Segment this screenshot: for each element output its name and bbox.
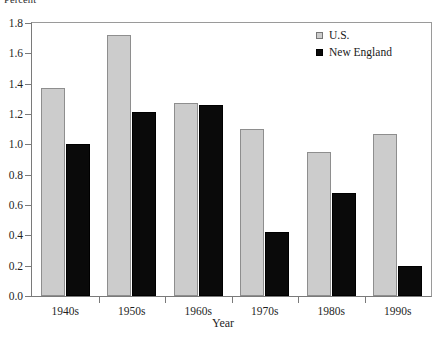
- y-axis-tick-label: 0.8: [9, 169, 23, 181]
- y-axis-tick-label: 1.6: [9, 47, 23, 59]
- y-axis-tick-label: 0.4: [9, 229, 23, 241]
- x-axis-title: Year: [0, 316, 446, 331]
- y-axis-tick: [25, 114, 32, 115]
- legend-item-new-england[interactable]: New England: [316, 45, 392, 60]
- bar-1970s-u-s: [240, 129, 264, 296]
- bar-1970s-new-england: [265, 232, 289, 296]
- chart-legend: U.S. New England: [316, 28, 392, 62]
- y-axis-tick-label: 0.0: [9, 290, 23, 302]
- legend-label-new-england: New England: [329, 45, 392, 60]
- y-axis-tick-label: 1.2: [9, 108, 23, 120]
- x-axis-tick: [99, 296, 100, 303]
- y-axis-tick-label: 1.0: [9, 138, 23, 150]
- y-axis-tick: [25, 23, 32, 24]
- legend-label-us: U.S.: [329, 28, 349, 43]
- y-axis-tick: [25, 266, 32, 267]
- y-axis-tick-label: 1.4: [9, 78, 23, 90]
- y-axis-tick-label: 0.6: [9, 199, 23, 211]
- y-axis-tick: [25, 84, 32, 85]
- x-axis-tick: [298, 296, 299, 303]
- x-axis-tick: [365, 296, 366, 303]
- bar-1960s-new-england: [199, 105, 223, 296]
- y-axis-tick: [25, 53, 32, 54]
- chart-figure: Percent 0.00.20.40.60.81.01.21.41.61.819…: [0, 0, 446, 337]
- bar-1990s-new-england: [398, 266, 422, 296]
- legend-item-us[interactable]: U.S.: [316, 28, 392, 43]
- y-axis-tick-label: 0.2: [9, 260, 23, 272]
- y-axis-tick: [25, 205, 32, 206]
- bar-1980s-u-s: [307, 152, 331, 296]
- y-axis-tick: [25, 235, 32, 236]
- bar-1950s-u-s: [107, 35, 131, 296]
- bar-1940s-u-s: [41, 88, 65, 296]
- bar-1960s-u-s: [174, 103, 198, 296]
- plot-area: 0.00.20.40.60.81.01.21.41.61.81940s1950s…: [31, 22, 432, 297]
- y-axis-caption: Percent: [4, 0, 36, 5]
- bar-1980s-new-england: [332, 193, 356, 296]
- bar-1950s-new-england: [132, 112, 156, 296]
- bar-1990s-u-s: [373, 134, 397, 296]
- legend-swatch-new-england-icon: [316, 49, 323, 56]
- y-axis-tick-label: 1.8: [9, 17, 23, 29]
- bar-1940s-new-england: [66, 144, 90, 296]
- legend-swatch-us-icon: [316, 32, 323, 39]
- x-axis-tick: [165, 296, 166, 303]
- x-axis-tick: [232, 296, 233, 303]
- y-axis-tick: [25, 144, 32, 145]
- y-axis-tick: [25, 296, 32, 297]
- y-axis-tick: [25, 175, 32, 176]
